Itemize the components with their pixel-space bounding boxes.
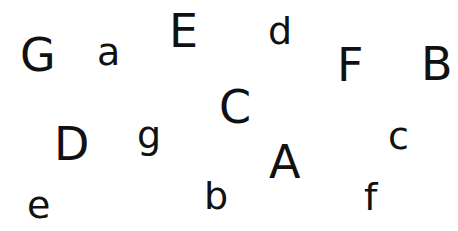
letter-A: A <box>269 139 300 185</box>
letter-f: f <box>364 178 377 216</box>
letter-e: e <box>27 186 50 224</box>
letter-a: a <box>97 33 120 71</box>
letter-F: F <box>337 42 363 88</box>
letter-G: G <box>20 32 56 78</box>
letter-b: b <box>204 177 228 215</box>
letter-C: C <box>219 84 251 130</box>
letter-c: c <box>388 117 409 155</box>
letter-B: B <box>421 41 453 87</box>
letter-g: g <box>137 116 161 154</box>
letter-E: E <box>169 8 198 54</box>
letter-D: D <box>54 121 89 167</box>
letter-d: d <box>268 12 292 50</box>
